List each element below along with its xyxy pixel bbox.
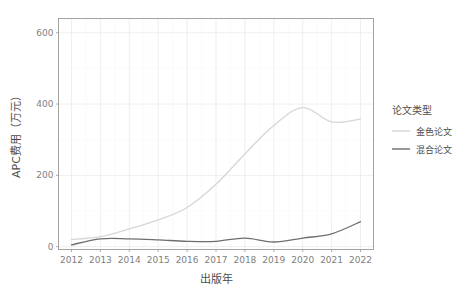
x-tick-label: 2021 [320,255,343,265]
y-tick-label: 0 [48,242,54,252]
x-tick-label: 2020 [291,255,314,265]
chart-container: 0200400600 20122013201420152016201720182… [0,0,471,289]
x-tick-label: 2016 [176,255,199,265]
legend-label: 混合论文 [416,144,452,155]
y-tick-label: 200 [36,170,53,180]
legend-title: 论文类型 [392,104,432,116]
line-chart: 0200400600 20122013201420152016201720182… [0,0,471,289]
x-tick-label: 2022 [349,255,372,265]
x-tick-label: 2014 [118,255,141,265]
x-tick-label: 2017 [205,255,228,265]
x-tick-label: 2019 [262,255,285,265]
x-axis-tick-labels: 2012201320142015201620172018201920202021… [60,255,372,265]
x-tick-label: 2015 [147,255,170,265]
y-tick-label: 600 [36,28,53,38]
x-tick-label: 2013 [89,255,112,265]
chart-background [0,0,471,289]
x-tick-label: 2012 [60,255,83,265]
x-axis-title: 出版年 [200,272,233,286]
y-tick-label: 400 [36,99,53,109]
x-tick-label: 2018 [233,255,256,265]
legend-label: 金色论文 [416,126,452,137]
y-axis-title: APC费用（万元） [10,90,23,178]
